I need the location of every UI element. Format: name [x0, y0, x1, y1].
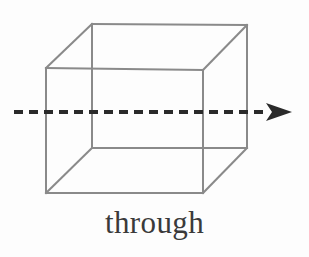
cube-connecting-edges	[46, 24, 247, 193]
arrow-head	[266, 103, 292, 121]
through-arrow	[14, 103, 292, 121]
cube-edge-connect-top-right	[203, 25, 247, 70]
cube-edge-connect-bottom-left	[46, 148, 92, 193]
cube-front-face	[46, 68, 203, 193]
cube-back-face	[92, 24, 247, 148]
cube-edge-connect-bottom-right	[203, 148, 247, 193]
cube-edge-connect-top-left	[46, 24, 92, 68]
cube-edge-back-top	[92, 24, 247, 25]
figure-caption: through	[0, 203, 309, 243]
cube-edge-front-top	[46, 68, 203, 70]
figure-container: through	[0, 0, 309, 257]
